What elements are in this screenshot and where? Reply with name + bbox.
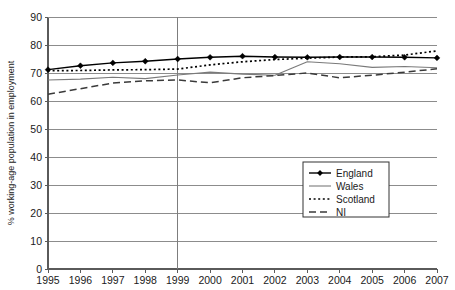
data-point-marker: [78, 63, 84, 69]
legend-label-ni: NI: [336, 207, 346, 218]
x-tick-label-2006: 2006: [393, 274, 417, 286]
x-tick-label-2004: 2004: [328, 274, 352, 286]
data-point-marker: [45, 67, 51, 73]
data-point-marker: [110, 60, 116, 66]
chart-container: 0102030405060708090 19951996199719981999…: [0, 0, 455, 290]
x-tick-label-1996: 1996: [69, 274, 93, 286]
x-tick-label-2007: 2007: [425, 274, 449, 286]
x-tick-label-2002: 2002: [263, 274, 287, 286]
y-tick-label-60: 60: [30, 95, 42, 107]
x-tick-label-1997: 1997: [101, 274, 125, 286]
x-axis-tick-labels: 1995199619971998199920002001200220032004…: [36, 269, 449, 286]
data-point-marker: [434, 55, 440, 61]
y-tick-label-10: 10: [30, 235, 42, 247]
x-tick-label-1995: 1995: [36, 274, 60, 286]
x-tick-label-1999: 1999: [166, 274, 190, 286]
y-axis-title: % working-age population in employment: [6, 60, 16, 225]
data-point-marker: [304, 54, 310, 60]
legend-label-wales: Wales: [336, 181, 363, 192]
y-axis-tick-labels: 0102030405060708090: [30, 11, 48, 275]
legend-label-england: England: [336, 168, 373, 179]
chart-legend: EnglandWalesScotlandNI: [303, 162, 389, 218]
x-tick-label-1998: 1998: [134, 274, 158, 286]
legend-label-scotland: Scotland: [336, 194, 375, 205]
x-tick-label-2003: 2003: [296, 274, 320, 286]
y-tick-label-20: 20: [30, 207, 42, 219]
line-chart: 0102030405060708090 19951996199719981999…: [0, 0, 455, 290]
x-tick-label-2005: 2005: [360, 274, 384, 286]
y-tick-label-40: 40: [30, 151, 42, 163]
x-tick-label-2001: 2001: [231, 274, 255, 286]
y-tick-label-50: 50: [30, 123, 42, 135]
data-point-marker: [207, 54, 213, 60]
y-tick-label-70: 70: [30, 67, 42, 79]
data-point-marker: [142, 58, 148, 64]
y-tick-label-80: 80: [30, 39, 42, 51]
data-point-marker: [175, 56, 181, 62]
y-tick-label-0: 0: [36, 263, 42, 275]
series-line-wales: [48, 62, 437, 80]
y-tick-label-30: 30: [30, 179, 42, 191]
data-point-marker: [240, 53, 246, 59]
y-axis-label-text: % working-age population in employment: [6, 60, 16, 225]
y-tick-label-90: 90: [30, 11, 42, 23]
x-tick-label-2000: 2000: [198, 274, 222, 286]
